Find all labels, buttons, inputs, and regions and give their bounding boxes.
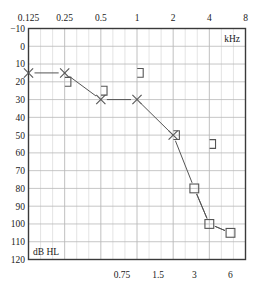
y-tick-label: 0 — [20, 42, 25, 52]
y-tick-label: 40 — [16, 113, 26, 123]
y-tick-label: 50 — [16, 131, 26, 141]
y-tick-label: 120 — [11, 255, 26, 265]
y-tick-label: 30 — [16, 95, 26, 105]
y-tick-label: −10 — [10, 24, 25, 34]
x-tick-top-label: 0.25 — [56, 13, 73, 23]
x-tick-top-label: 1 — [135, 13, 140, 23]
x-tick-top-label: 2 — [171, 13, 176, 23]
x-tick-bottom-label: 6 — [228, 270, 233, 280]
chart-canvas: 0.1250.250.51248 0.751.536 −100102030405… — [0, 0, 254, 286]
x-tick-bottom-label: 3 — [192, 270, 197, 280]
y-tick-label: 90 — [16, 202, 26, 212]
x-axis-unit-label: kHz — [224, 34, 240, 44]
x-tick-bottom-label: 1.5 — [152, 270, 164, 280]
y-tick-label: 10 — [16, 59, 26, 69]
y-tick-label: 60 — [16, 148, 26, 158]
y-axis-unit-label: dB HL — [33, 247, 59, 257]
x-tick-bottom-label: 0.75 — [114, 270, 131, 280]
audiogram-chart: 0.1250.250.51248 0.751.536 −100102030405… — [0, 0, 254, 286]
y-tick-label: 20 — [16, 77, 26, 87]
x-tick-top-label: 0.125 — [18, 13, 40, 23]
x-tick-top-label: 0.5 — [95, 13, 107, 23]
y-tick-label: 80 — [16, 184, 26, 194]
x-tick-top-label: 8 — [243, 13, 248, 23]
x-tick-top-label: 4 — [207, 13, 212, 23]
y-tick-label: 100 — [11, 219, 26, 229]
y-tick-label: 110 — [11, 237, 25, 247]
y-tick-label: 70 — [16, 166, 26, 176]
